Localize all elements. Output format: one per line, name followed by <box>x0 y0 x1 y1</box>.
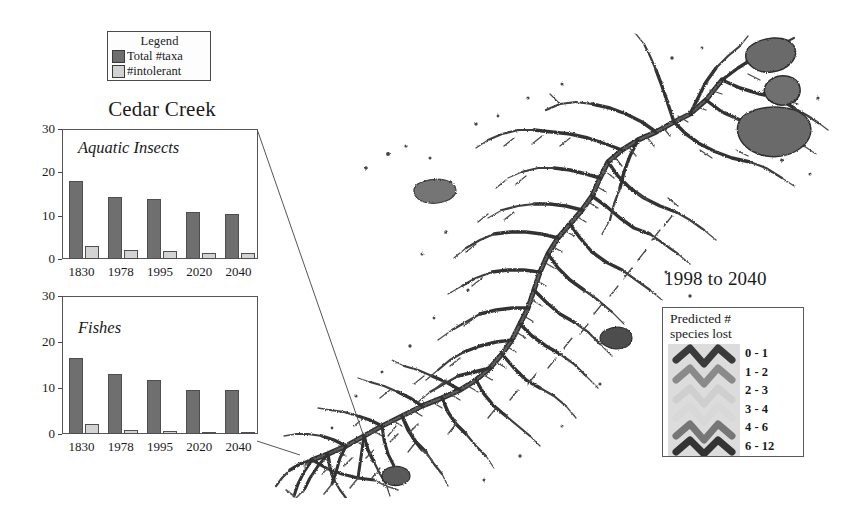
map-legend-zigzag-icons <box>668 344 740 456</box>
map-legend-class-label: 4 - 6 <box>745 418 803 437</box>
chart-plot-area <box>62 296 258 434</box>
map-legend-box: Predicted # species lost 0 - 1 1 - 2 2 -… <box>662 307 804 457</box>
x-axis-tick-label: 2040 <box>218 439 258 455</box>
zigzag-icon-class-4-6 <box>676 424 732 440</box>
y-axis-tick-label: 20 <box>31 334 55 350</box>
map-legend-title: Predicted # species lost <box>670 311 798 341</box>
zigzag-icon-class-3-4 <box>676 406 732 422</box>
map-legend-class-label: 0 - 1 <box>745 344 803 363</box>
y-axis-tick-label: 30 <box>31 288 55 304</box>
bar-intolerant <box>241 432 255 434</box>
bar-intolerant <box>124 430 138 434</box>
map-legend-class-label: 2 - 3 <box>745 381 803 400</box>
zigzag-icon-class-0-1 <box>676 348 732 364</box>
map-legend-title-line1: Predicted # <box>670 311 798 326</box>
x-axis-tick-label: 2020 <box>179 439 219 455</box>
y-axis-tick-mark <box>58 434 62 435</box>
x-axis-tick-label: 1978 <box>101 439 141 455</box>
bar-intolerant <box>163 431 177 434</box>
x-axis-tick-label: 1995 <box>140 439 180 455</box>
map-legend-class-label: 3 - 4 <box>745 400 803 419</box>
bar-total-taxa <box>186 390 200 434</box>
bar-intolerant <box>202 432 216 434</box>
bar-total-taxa <box>147 380 161 434</box>
bar-total-taxa <box>108 374 122 434</box>
map-legend-title-line2: species lost <box>670 326 798 341</box>
bar-intolerant <box>85 424 99 434</box>
y-axis-tick-label: 0 <box>31 426 55 442</box>
map-period-caption: 1998 to 2040 <box>664 268 767 290</box>
bar-total-taxa <box>225 390 239 434</box>
zigzag-icon-class-1-2 <box>676 368 732 384</box>
bar-total-taxa <box>69 358 83 434</box>
map-legend-body: 0 - 1 1 - 2 2 - 3 3 - 4 4 - 6 6 - 12 <box>663 344 803 456</box>
map-legend-class-labels: 0 - 1 1 - 2 2 - 3 3 - 4 4 - 6 6 - 12 <box>745 344 803 455</box>
y-axis-tick-label: 10 <box>31 380 55 396</box>
map-legend-class-label: 6 - 12 <box>745 437 803 456</box>
chart-fishes: Fishes010203018301978199520202040 <box>0 0 300 285</box>
zigzag-icon-class-2-3 <box>676 388 732 404</box>
map-legend-class-label: 1 - 2 <box>745 363 803 382</box>
x-axis-tick-label: 1830 <box>62 439 102 455</box>
figure-root: Legend Total #taxa #intolerant Cedar Cre… <box>0 0 845 523</box>
